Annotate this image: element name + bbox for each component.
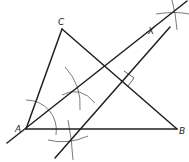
angle-bisector-line xyxy=(7,1,187,143)
side-cb xyxy=(62,29,177,129)
arc-bisector-2 xyxy=(62,91,95,103)
arc-top-2 xyxy=(172,0,177,30)
label-c: C xyxy=(58,17,65,27)
label-x: X xyxy=(147,26,155,36)
construction-diagram: A B C X xyxy=(0,0,189,162)
arc-bisector-1 xyxy=(65,67,80,110)
label-a: A xyxy=(14,124,21,134)
arc-lower-1 xyxy=(48,136,88,142)
label-b: B xyxy=(179,126,185,136)
perpendicular-line xyxy=(55,27,170,158)
